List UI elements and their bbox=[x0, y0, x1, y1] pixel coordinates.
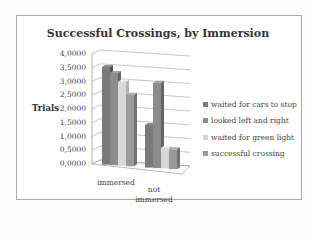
legend-swatch-icon bbox=[203, 102, 208, 107]
legend-swatch-icon bbox=[203, 135, 208, 140]
legend-label: waited for green light bbox=[211, 133, 294, 142]
legend-label: looked left and right bbox=[211, 116, 289, 125]
bar bbox=[169, 147, 180, 169]
x-tick-label: notimmersed bbox=[132, 185, 176, 205]
legend-label: waited for cars to stop bbox=[211, 100, 297, 109]
legend-item: looked left and right bbox=[203, 113, 297, 130]
gridline bbox=[100, 50, 190, 56]
legend-item: waited for cars to stop bbox=[203, 96, 297, 113]
bar bbox=[126, 93, 137, 166]
legend: waited for cars to stoplooked left and r… bbox=[203, 96, 297, 162]
legend-swatch-icon bbox=[203, 151, 208, 156]
x-tick-label: immersed bbox=[96, 178, 136, 188]
legend-swatch-icon bbox=[203, 118, 208, 123]
gridline bbox=[100, 64, 190, 70]
legend-item: waited for green light bbox=[203, 129, 297, 146]
legend-label: successful crossing bbox=[211, 149, 285, 158]
legend-item: successful crossing bbox=[203, 146, 297, 163]
